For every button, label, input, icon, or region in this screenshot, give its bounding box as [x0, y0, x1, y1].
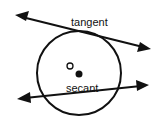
arrowhead-left-icon	[15, 11, 29, 21]
tangent-label: tangent	[71, 17, 108, 28]
secant-label: secant	[66, 83, 98, 94]
arrowhead-right-icon	[136, 80, 149, 91]
arrowhead-right-icon	[137, 42, 151, 52]
circle-diagram: tangent secant	[0, 0, 162, 122]
arrowhead-left-icon	[17, 92, 31, 103]
center-point	[76, 71, 83, 78]
center-label-o	[67, 63, 73, 69]
